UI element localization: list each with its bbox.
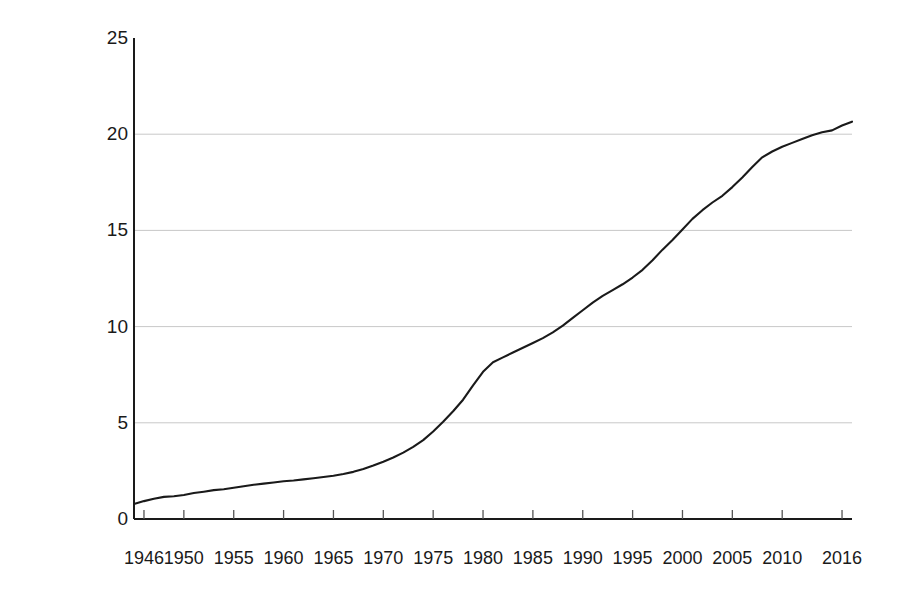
x-tick-label: 1970 (363, 548, 403, 569)
plot-area (0, 0, 897, 595)
axis-lines (134, 38, 852, 519)
grid-lines (134, 134, 852, 423)
data-series-line (134, 122, 852, 504)
x-tick-label: 1946 (124, 548, 164, 569)
x-tick-label: 2000 (662, 548, 702, 569)
x-tick-label: 1955 (214, 548, 254, 569)
x-tick-label: 1995 (613, 548, 653, 569)
x-tick-label: 1985 (513, 548, 553, 569)
x-tick-label: 1990 (563, 548, 603, 569)
x-tick-label: 1980 (463, 548, 503, 569)
x-tick-label: 1950 (164, 548, 204, 569)
x-tick-label: 2010 (762, 548, 802, 569)
x-tick-label: 2005 (712, 548, 752, 569)
chart-figure: Nominal Wages (in dollars) 0510152025 19… (0, 0, 897, 595)
x-axis-ticks (144, 510, 842, 519)
x-tick-label: 1960 (264, 548, 304, 569)
x-tick-label: 1965 (313, 548, 353, 569)
x-tick-label: 1975 (413, 548, 453, 569)
x-tick-label: 2016 (822, 548, 862, 569)
x-axis-tick-labels: 1946195019551960196519701975198019851990… (0, 548, 897, 578)
